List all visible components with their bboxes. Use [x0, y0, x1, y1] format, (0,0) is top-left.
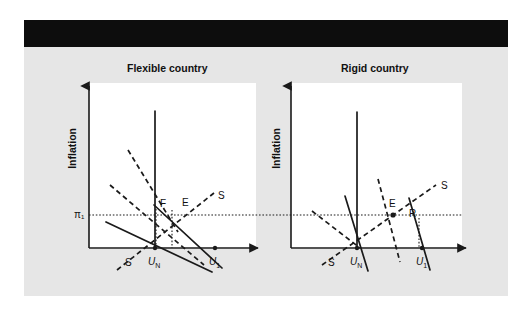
label-u1-rigid: U1	[416, 256, 427, 269]
figure-page: Figure 8.7 Monetary policy and asymmetri…	[0, 0, 532, 322]
label-un-flexible: UN	[148, 256, 160, 269]
point-e-rigid	[390, 212, 395, 217]
label-supply-lower-rigid: S	[328, 257, 335, 268]
supply-lower-left-rigid	[312, 211, 360, 248]
label-point-f-flexible: F	[160, 198, 166, 209]
panel-rigid	[291, 86, 466, 271]
label-supply-upper-rigid: S	[441, 180, 448, 191]
label-point-r-rigid: R	[409, 208, 416, 219]
label-u1-flexible: U1	[209, 256, 220, 269]
label-supply-lower-flexible: S	[125, 257, 132, 268]
chart-vector-layer	[0, 0, 532, 322]
label-point-e-rigid: E	[389, 198, 396, 209]
label-un-rigid: UN	[350, 256, 362, 269]
label-point-e-flexible: E	[182, 197, 189, 208]
point-un-flexible	[153, 246, 157, 250]
point-un-rigid	[355, 246, 359, 250]
panel-flexible	[89, 86, 462, 272]
label-supply-upper-flexible: S	[218, 190, 225, 201]
demand-curve-steep-rigid	[378, 179, 400, 262]
point-u1-flexible	[213, 246, 217, 250]
point-u1-rigid	[420, 246, 424, 250]
